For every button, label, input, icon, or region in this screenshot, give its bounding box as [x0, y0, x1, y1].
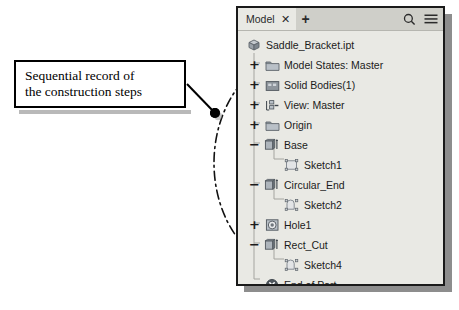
tree-label-rect-cut: Rect_Cut: [284, 239, 328, 251]
panel-tab-strip: Model ✕ +: [238, 8, 443, 31]
menu-icon[interactable]: [424, 13, 438, 25]
expand-toggle[interactable]: +: [249, 60, 259, 70]
tree-label-hole1: Hole1: [284, 219, 311, 231]
tree-row-sketch2[interactable]: Sketch2: [238, 195, 443, 215]
tree-row-model-states[interactable]: + Model States: Master: [238, 55, 443, 75]
sketch-arc-icon: [284, 257, 300, 273]
tab-model[interactable]: Model ✕: [238, 8, 296, 30]
tree-row-rect-cut[interactable]: − Rect_Cut: [238, 235, 443, 255]
tree-row-sketch4[interactable]: Sketch4: [238, 255, 443, 275]
panel-tools: [403, 8, 438, 30]
sketch-arc-icon: [284, 197, 300, 213]
model-browser-panel: Model ✕ +: [236, 6, 445, 286]
tree-label-sketch2: Sketch2: [304, 199, 342, 211]
add-tab-button[interactable]: +: [302, 12, 310, 26]
expand-toggle[interactable]: +: [249, 220, 259, 230]
view-icon: [264, 97, 280, 113]
callout-box: Sequential record of the construction st…: [14, 60, 186, 108]
tree-label-root: Saddle_Bracket.ipt: [266, 39, 354, 51]
expand-toggle[interactable]: +: [249, 120, 259, 130]
tree-label-base: Base: [284, 139, 308, 151]
leader-dot-top: [210, 108, 220, 118]
callout-text: Sequential record of the construction st…: [25, 68, 142, 100]
callout-box-shadow: [19, 110, 191, 114]
extrude-icon: [264, 177, 280, 193]
feature-tree: Saddle_Bracket.ipt + Model States: Maste…: [238, 31, 443, 286]
solid-body-icon: [264, 77, 280, 93]
tree-row-end-of-part[interactable]: End of Part: [238, 275, 443, 286]
tree-row-root[interactable]: Saddle_Bracket.ipt: [238, 35, 443, 55]
tree-row-origin[interactable]: + Origin: [238, 115, 443, 135]
collapse-toggle[interactable]: −: [249, 140, 259, 150]
tab-model-label: Model: [246, 13, 275, 25]
tree-label-solid-bodies: Solid Bodies(1): [284, 79, 355, 91]
collapse-toggle[interactable]: −: [249, 180, 259, 190]
tree-row-solid-bodies[interactable]: + Solid Bodies(1): [238, 75, 443, 95]
expand-toggle[interactable]: +: [249, 80, 259, 90]
hole-icon: [264, 217, 280, 233]
end-of-part-icon: [264, 277, 280, 286]
folder-icon: [264, 117, 280, 133]
sketch-rect-icon: [284, 157, 300, 173]
tree-row-base[interactable]: − Base: [238, 135, 443, 155]
tree-row-hole1[interactable]: + Hole1: [238, 215, 443, 235]
tree-label-sketch1: Sketch1: [304, 159, 342, 171]
leader-dot: [210, 108, 220, 118]
tree-label-model-states: Model States: Master: [284, 59, 383, 71]
tree-row-view-master[interactable]: + View: Master: [238, 95, 443, 115]
extrude-icon: [264, 237, 280, 253]
tree-label-sketch4: Sketch4: [304, 259, 342, 271]
leader-dot-shadow: [214, 112, 222, 120]
tree-row-sketch1[interactable]: Sketch1: [238, 155, 443, 175]
extrude-icon: [264, 137, 280, 153]
tree-row-circular-end[interactable]: − Circular_End: [238, 175, 443, 195]
tree-label-origin: Origin: [284, 119, 312, 131]
part-cube-icon: [246, 37, 262, 53]
tree-label-view-master: View: Master: [284, 99, 345, 111]
close-icon[interactable]: ✕: [281, 14, 290, 25]
tree-label-circular-end: Circular_End: [284, 179, 345, 191]
folder-icon: [264, 57, 280, 73]
expand-toggle[interactable]: +: [249, 100, 259, 110]
leader-line: [187, 84, 215, 113]
tree-label-end-of-part: End of Part: [284, 279, 337, 286]
search-icon[interactable]: [403, 13, 416, 26]
collapse-toggle[interactable]: −: [249, 240, 259, 250]
